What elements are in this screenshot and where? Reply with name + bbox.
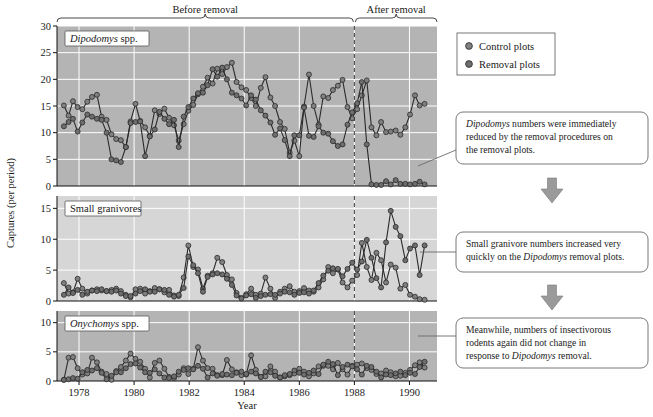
data-point	[94, 360, 99, 365]
data-point	[229, 373, 234, 378]
data-point	[403, 125, 408, 130]
data-point	[220, 272, 225, 277]
data-point	[205, 375, 210, 380]
data-point	[282, 138, 287, 143]
data-point	[292, 368, 297, 373]
annotation-dipodomys: Dipodomys numbers were immediatelyreduce…	[418, 112, 648, 166]
data-point	[393, 178, 398, 183]
data-point	[143, 370, 148, 375]
annotation-line: Meanwhile, numbers of insectivorous	[466, 324, 611, 335]
data-point	[85, 367, 90, 372]
data-point	[258, 294, 263, 299]
y-tick-labels: 051015	[41, 203, 58, 307]
data-point	[229, 60, 234, 65]
data-point	[282, 289, 287, 294]
data-point	[181, 367, 186, 372]
data-point	[359, 361, 364, 366]
data-point	[359, 240, 364, 245]
data-point	[388, 129, 393, 134]
data-point	[143, 287, 148, 292]
data-point	[422, 297, 427, 302]
data-point	[297, 370, 302, 375]
data-point	[123, 294, 128, 299]
data-point	[167, 287, 172, 292]
data-point	[374, 369, 379, 374]
data-point	[398, 369, 403, 374]
data-point	[412, 372, 417, 377]
data-point	[408, 246, 413, 251]
down-arrow-icon	[541, 178, 563, 203]
data-point	[89, 368, 94, 373]
x-tick-label: 1982	[179, 387, 200, 398]
data-point	[422, 359, 427, 364]
data-point	[75, 376, 80, 381]
data-point	[340, 77, 345, 82]
data-point	[422, 182, 427, 187]
data-point	[282, 126, 287, 131]
data-point	[162, 375, 167, 380]
data-point	[302, 290, 307, 295]
figure-root: 051015202530Dipodomys spp.051015Small gr…	[0, 0, 653, 417]
data-point	[220, 372, 225, 377]
data-point	[340, 274, 345, 279]
data-point	[99, 287, 104, 292]
data-point	[330, 271, 335, 276]
data-point	[109, 373, 114, 378]
data-point	[167, 376, 172, 381]
y-tick-labels: 0510	[41, 317, 58, 386]
y-tick-label: 15	[41, 203, 52, 214]
data-point	[403, 282, 408, 287]
data-point	[220, 65, 225, 70]
data-point	[321, 130, 326, 135]
data-point	[335, 373, 340, 378]
down-arrow-icon	[541, 285, 563, 310]
data-point	[224, 276, 229, 281]
y-tick-label: 15	[41, 101, 52, 112]
after-removal-brace	[355, 14, 437, 22]
y-axis-title: Captures (per period)	[5, 158, 17, 248]
data-point	[287, 154, 292, 159]
data-point	[326, 359, 331, 364]
data-point	[224, 77, 229, 82]
figure-canvas: 051015202530Dipodomys spp.051015Small gr…	[0, 0, 653, 417]
y-tick-label: 0	[46, 376, 51, 387]
period-braces: Before removalAfter removal	[57, 4, 437, 22]
data-point	[321, 94, 326, 99]
data-point	[200, 90, 205, 95]
data-point	[143, 125, 148, 130]
data-point	[393, 128, 398, 133]
data-point	[200, 289, 205, 294]
data-point	[224, 372, 229, 377]
annotation-line: rodents again did not change in	[466, 337, 586, 348]
data-point	[215, 74, 220, 79]
data-point	[229, 90, 234, 95]
data-point	[61, 292, 66, 297]
data-point	[273, 132, 278, 137]
data-point	[210, 81, 215, 86]
annotation-line: Dipodomys numbers were immediately	[465, 118, 617, 129]
data-point	[335, 360, 340, 365]
data-point	[292, 133, 297, 138]
data-point	[345, 362, 350, 367]
data-point	[157, 371, 162, 376]
annotation-line: the removal plots.	[466, 144, 535, 155]
data-point	[229, 367, 234, 372]
data-point	[200, 84, 205, 89]
data-point	[287, 290, 292, 295]
data-point	[89, 355, 94, 360]
data-point	[75, 366, 80, 371]
data-point	[172, 374, 177, 379]
data-point	[273, 292, 278, 297]
data-point	[133, 101, 138, 106]
annotation-line: Small granivore numbers increased very	[466, 238, 621, 249]
data-point	[359, 80, 364, 85]
data-point	[384, 130, 389, 135]
data-point	[379, 375, 384, 380]
data-point	[398, 286, 403, 291]
data-point	[278, 375, 283, 380]
data-point	[114, 137, 119, 142]
data-point	[133, 356, 138, 361]
data-point	[66, 120, 71, 125]
data-point	[297, 154, 302, 159]
data-point	[350, 110, 355, 115]
